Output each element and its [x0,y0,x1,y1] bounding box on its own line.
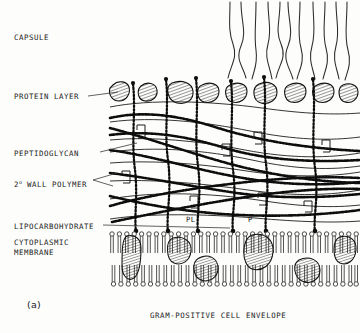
capsule-fibres [228,2,350,80]
phospholipid [213,232,217,253]
phospholipid [171,265,175,286]
phospholipid [274,265,278,286]
phospholipid [163,265,167,286]
phospholipid [162,232,166,253]
leader-wall-polymer-b [93,173,117,180]
phospholipid [141,265,145,286]
phospholipid [110,232,114,253]
phospholipid [154,232,158,253]
phospholipid [222,265,226,286]
phospholipid [326,265,330,286]
label-cytoplasmic-membrane-line1: CYTOPLASMIC [14,238,69,248]
phospholipid [221,232,225,253]
cytoplasmic-membrane [110,232,359,286]
phospholipid [156,265,160,286]
label-wall-polymer-text: WALL POLYMER [22,180,87,189]
protein-layer-blobs [109,81,358,103]
phospholipid [324,232,328,253]
phospholipid-lower-leaflet [111,265,358,286]
phospholipid [295,232,299,253]
phospholipid [267,265,271,286]
phospholipid [348,265,352,286]
phospholipid [148,265,152,286]
phospholipid [237,265,241,286]
phospholipid [185,265,189,286]
figure-root: CAPSULE PROTEIN LAYER PEPTIDOGLYCAN 2o W… [0,0,360,333]
phospholipid [117,232,121,253]
phospholipid [280,232,284,253]
phospholipid [111,265,115,286]
label-secondary-wall-polymer: 2o WALL POLYMER [14,177,87,190]
phospholipid [287,232,291,253]
label-capsule: CAPSULE [14,33,49,43]
figure-caption: GRAM-POSITIVE CELL ENVELOPE [150,311,286,321]
phospholipid [206,232,210,253]
phospholipid [354,265,358,286]
label-protein-layer: PROTEIN LAYER [14,92,79,102]
panel-label: (a) [27,300,41,310]
phospholipid [245,265,249,286]
label-lipocarbohydrate: LIPOCARBOHYDRATE [14,222,94,232]
phospholipid [230,265,234,286]
phospholipid [236,232,240,253]
phospholipid [310,232,314,253]
phospholipid [341,265,345,286]
label-cytoplasmic-membrane: CYTOPLASMIC MEMBRANE [14,238,69,258]
label-p: P [248,215,253,224]
phospholipid [228,232,232,253]
label-pl: PL [186,215,195,224]
phospholipid [289,265,293,286]
phospholipid [317,232,321,253]
envelope-drawing [0,0,360,333]
phospholipid [282,265,286,286]
label-peptidoglycan: PEPTIDOGLYCAN [14,149,79,159]
phospholipid [147,232,151,253]
phospholipid [333,265,337,286]
phospholipid [199,232,203,253]
phospholipid [191,232,195,253]
phospholipid-upper-leaflet [110,232,359,253]
phospholipid [178,265,182,286]
phospholipid [302,232,306,253]
label-cytoplasmic-membrane-line2: MEMBRANE [14,248,69,258]
